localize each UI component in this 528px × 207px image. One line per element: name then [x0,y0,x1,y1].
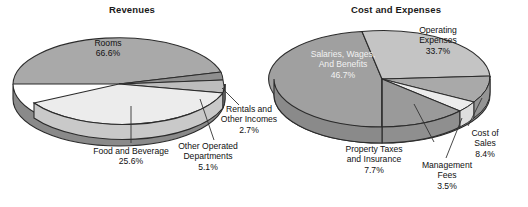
revenues-label-other-operated-name-1: Other Operated [156,141,260,151]
revenues-label-rooms-value: 66.6% [48,48,168,58]
costs-label-operating-expenses-name-1: Operating [392,25,484,35]
revenues-label-other-operated-value: 5.1% [156,162,260,172]
costs-label-salaries-value: 46.7% [284,70,402,80]
costs-label-property-taxes-name-1: Property Taxes [314,144,434,154]
costs-label-salaries: Salaries, Wages, And Benefits 46.7% [284,49,402,80]
revenues-label-rooms-name: Rooms [48,38,168,48]
revenues-label-other-operated: Other Operated Departments 5.1% [156,141,260,172]
costs-label-cost-of-sales-name-1: Cost of [452,128,518,138]
costs-label-cost-of-sales-value: 8.4% [452,149,518,159]
costs-label-operating-expenses: Operating Expenses 33.7% [392,25,484,56]
costs-label-operating-expenses-name-2: Expenses [392,35,484,45]
costs-label-cost-of-sales: Cost of Sales 8.4% [452,128,518,159]
costs-label-management-fees-name-2: Fees [402,170,492,180]
costs-label-operating-expenses-value: 33.7% [392,46,484,56]
revenues-label-other-operated-name-2: Departments [156,151,260,161]
pie-charts-figure: Revenues [0,0,528,207]
revenues-label-rooms: Rooms 66.6% [48,38,168,59]
costs-label-management-fees: Management Fees 3.5% [402,160,492,191]
costs-label-management-fees-value: 3.5% [402,181,492,191]
costs-label-cost-of-sales-name-2: Sales [452,138,518,148]
revenues-chart-panel: Revenues [0,0,264,207]
costs-label-salaries-name-1: Salaries, Wages, [284,49,402,59]
costs-label-management-fees-name-1: Management [402,160,492,170]
costs-label-salaries-name-2: And Benefits [284,59,402,69]
costs-chart-panel: Cost and Expenses [264,0,528,207]
